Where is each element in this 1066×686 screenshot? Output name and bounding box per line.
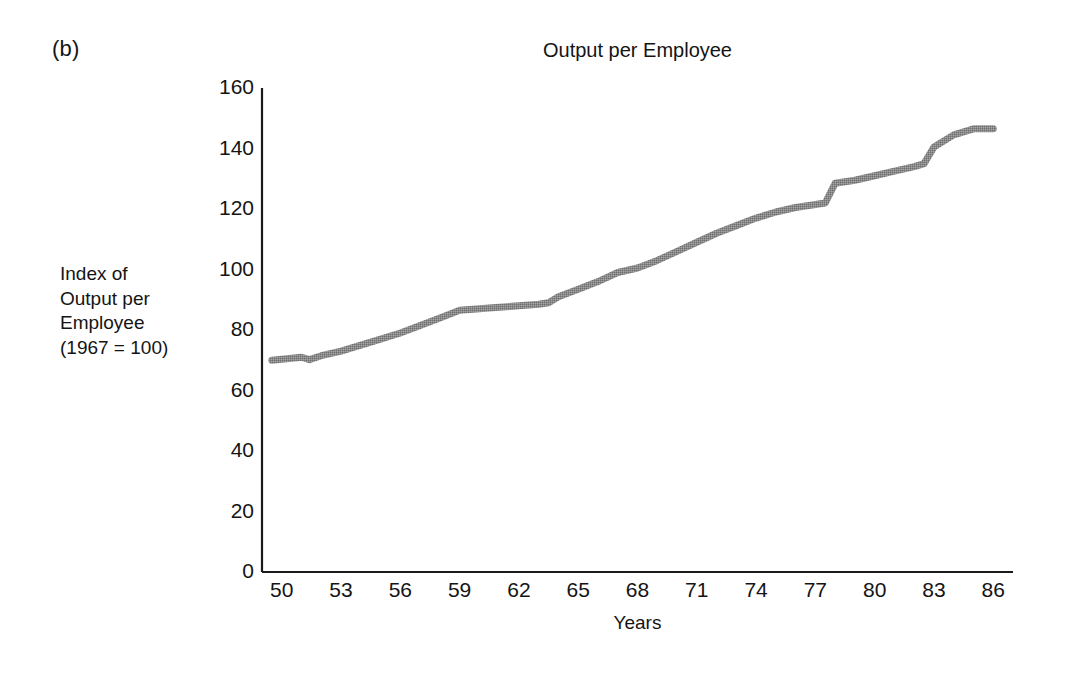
data-series-line: [272, 129, 993, 360]
plot-area: [0, 0, 1066, 686]
figure-panel: (b) Output per Employee Index of Output …: [0, 0, 1066, 686]
